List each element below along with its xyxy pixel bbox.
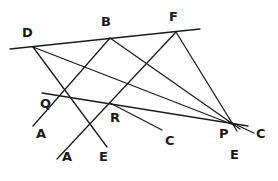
point-label-F: F (169, 10, 178, 23)
ray-label-E-at-Q: E (99, 150, 108, 163)
line-D-to-P (33, 47, 234, 125)
line-P-to-C (228, 121, 254, 133)
point-label-P: P (219, 127, 229, 140)
ray-label-E-at-P: E (230, 148, 239, 161)
line-DBF-top (10, 29, 200, 49)
ray-label-C-at-R: C (165, 134, 175, 147)
ray-label-A-at-R: A (62, 150, 72, 163)
line-B-through-R-to-P (110, 38, 240, 129)
point-label-D: D (22, 26, 33, 39)
point-label-Q: Q (40, 97, 51, 110)
point-label-R: R (110, 111, 120, 124)
ray-label-A-at-Q: A (36, 127, 46, 140)
geometry-diagram-canvas: D B F Q R P A A E C C E (0, 0, 278, 181)
ray-label-C-at-P: C (256, 127, 266, 140)
point-label-B: B (101, 15, 111, 28)
